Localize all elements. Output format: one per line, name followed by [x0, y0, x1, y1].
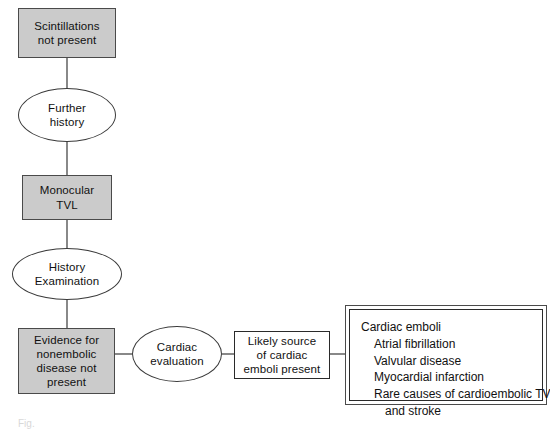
node-label: Monocular TVL	[40, 183, 95, 211]
outcome-line-heading: Cardiac emboli	[361, 319, 542, 336]
outcome-box-inner-border: Cardiac emboli Atrial fibrillation Valvu…	[349, 309, 543, 401]
outcome-line-valvular-disease: Valvular disease	[361, 353, 542, 370]
outcome-line-atrial-fibrillation: Atrial fibrillation	[361, 336, 542, 353]
diagram-canvas: Scintillations not present Further histo…	[0, 0, 550, 430]
node-monocular-tvl[interactable]: Monocular TVL	[22, 175, 112, 220]
node-label: Cardiac evaluation	[150, 340, 203, 368]
outcome-line-and-stroke: and stroke	[361, 403, 542, 420]
node-scintillations-not-present[interactable]: Scintillations not present	[18, 8, 116, 58]
node-further-history[interactable]: Further history	[18, 88, 116, 142]
node-likely-source-of-cardiac-emboli[interactable]: Likely source of cardiac emboli present	[234, 331, 330, 379]
node-history-examination[interactable]: History Examination	[12, 248, 122, 300]
node-label: Scintillations not present	[34, 19, 99, 47]
node-label: Likely source of cardiac emboli present	[244, 334, 321, 376]
figure-caption: Fig.	[18, 418, 35, 429]
outcome-line-myocardial-infarction: Myocardial infarction	[361, 369, 542, 386]
outcome-line-rare-causes: Rare causes of cardioembolic TVL	[361, 386, 542, 403]
outcome-box-cardiac-emboli[interactable]: Cardiac emboli Atrial fibrillation Valvu…	[345, 305, 547, 405]
node-cardiac-evaluation[interactable]: Cardiac evaluation	[132, 326, 222, 382]
node-evidence-nonembolic-disease-not-present[interactable]: Evidence for nonembolic disease not pres…	[18, 328, 115, 394]
node-label: Evidence for nonembolic disease not pres…	[34, 333, 99, 389]
node-label: History Examination	[35, 260, 99, 288]
node-label: Further history	[48, 101, 86, 129]
